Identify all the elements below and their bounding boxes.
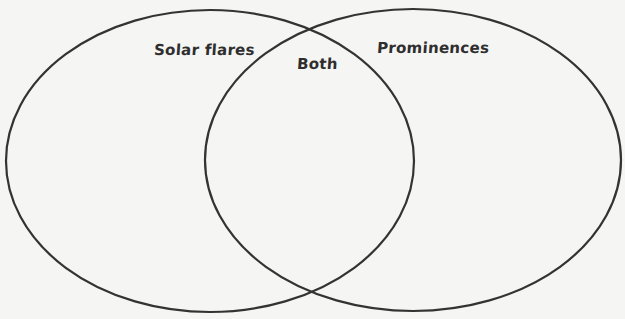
venn-diagram: Solar flares Both Prominences (0, 0, 625, 319)
set-label-prominences: Prominences (376, 41, 489, 56)
venn-ellipses (0, 0, 625, 319)
intersection-label-both: Both (296, 57, 338, 72)
set-label-solar-flares: Solar flares (153, 43, 255, 58)
